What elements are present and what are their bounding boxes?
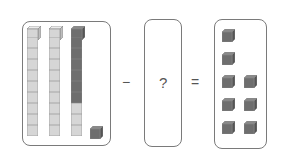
- rod-cube: [27, 59, 38, 70]
- rod-cube: [27, 114, 38, 125]
- rod-cube: [49, 114, 60, 125]
- unknown-box: ?: [144, 19, 182, 147]
- rod-cube: [71, 81, 82, 92]
- rod-cube: [49, 103, 60, 114]
- rod-cube: [71, 125, 82, 136]
- rod-cube: [27, 37, 38, 48]
- result-box: [214, 19, 267, 149]
- rod-cube: [27, 103, 38, 114]
- rod-cube: [71, 70, 82, 81]
- rod-cube: [49, 70, 60, 81]
- unit-cube: [244, 75, 257, 88]
- unit-cube: [222, 29, 235, 42]
- unit-cube: [222, 52, 235, 65]
- rod-cube: [71, 59, 82, 70]
- rod-cube: [49, 92, 60, 103]
- unit-cube: [244, 121, 257, 134]
- rod-cube: [71, 37, 82, 48]
- equals-operator: =: [191, 75, 199, 89]
- rod-cube: [49, 37, 60, 48]
- rod-cube: [71, 114, 82, 125]
- rod-cube: [49, 125, 60, 136]
- unit-cube: [222, 121, 235, 134]
- rod-cube: [27, 81, 38, 92]
- rod-cube: [27, 125, 38, 136]
- rod-cube: [49, 59, 60, 70]
- rod-cube: [49, 81, 60, 92]
- rod-cube: [27, 92, 38, 103]
- minuend-box: [22, 21, 111, 146]
- minus-operator: −: [122, 75, 130, 89]
- rod-cube: [71, 48, 82, 59]
- unit-cube: [90, 126, 103, 139]
- rod-cube: [71, 103, 82, 114]
- question-mark: ?: [159, 76, 167, 90]
- unit-cube: [222, 75, 235, 88]
- rod-cube: [27, 48, 38, 59]
- rod-cube: [49, 48, 60, 59]
- rod-cube: [27, 70, 38, 81]
- rod-cube: [71, 92, 82, 103]
- unit-cube: [222, 98, 235, 111]
- unit-cube: [244, 98, 257, 111]
